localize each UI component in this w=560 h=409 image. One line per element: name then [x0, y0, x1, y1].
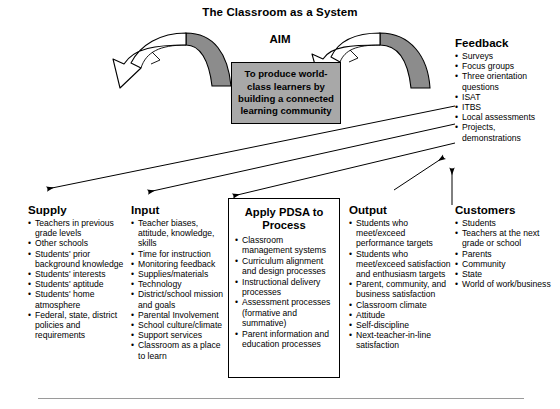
column-apply-pdsa-to-process: Apply PDSA to Process Classroom manageme… — [228, 198, 340, 378]
feedback-to-input-arrow — [148, 124, 455, 192]
list-item: Teachers at the next grade or school — [455, 228, 557, 248]
feedback-list: Surveys Focus groups Three orientation q… — [455, 51, 555, 143]
customers-list: Students Teachers at the next grade or s… — [455, 218, 557, 289]
column-input: Input Teacher biases, attitude, knowledg… — [131, 203, 229, 361]
column-heading-input: Input — [131, 203, 229, 216]
pdsa-list: Classroom management systems Curriculum … — [235, 235, 333, 349]
column-customers: Customers Students Teachers at the next … — [455, 203, 557, 289]
aim-statement: To produce world-class learners by build… — [232, 68, 340, 118]
list-item: Teacher biases, attitude, knowledge, ski… — [131, 218, 229, 249]
column-heading-supply: Supply — [28, 203, 126, 216]
column-heading-pdsa: Apply PDSA to Process — [235, 206, 333, 232]
column-supply: Supply Teachers in previous grade levels… — [28, 203, 126, 340]
list-item: Parents — [455, 249, 557, 259]
list-item: ISAT — [455, 92, 555, 102]
list-item: Classroom climate — [349, 300, 451, 310]
list-item: District/school mission and goals — [131, 289, 229, 309]
list-item: Students' prior background knowledge — [28, 249, 126, 269]
list-item: Focus groups — [455, 61, 555, 71]
bottom-divider — [38, 398, 524, 399]
column-heading-customers: Customers — [455, 203, 557, 216]
list-item: Local assessments — [455, 112, 555, 122]
list-item: Attitude — [349, 310, 451, 320]
list-item: Teachers in previous grade levels — [28, 218, 126, 238]
list-item: Three orientation questions — [455, 71, 555, 91]
aim-box: To produce world-class learners by build… — [231, 62, 341, 124]
list-item: Students who meet/exceed performance tar… — [349, 218, 451, 249]
list-item: Instructional delivery processes — [235, 277, 333, 298]
list-item: Time for instruction — [131, 249, 229, 259]
classroom-system-diagram: The Classroom as a System AIM To produce… — [0, 0, 560, 409]
list-item: Students' aptitude — [28, 279, 126, 289]
list-item: Classroom management systems — [235, 235, 333, 256]
list-item: Parent, community, and business satisfac… — [349, 279, 451, 299]
list-item: Students — [455, 218, 557, 228]
output-to-feedback-arrow — [394, 157, 444, 190]
column-output: Output Students who meet/exceed performa… — [349, 203, 451, 351]
list-item: Monitoring feedback — [131, 259, 229, 269]
list-item: Next-teacher-in-line satisfaction — [349, 330, 451, 350]
list-item: Projects, demonstrations — [455, 122, 555, 142]
list-item: Students who meet/exceed satisfaction an… — [349, 249, 451, 280]
list-item: Supplies/materials — [131, 269, 229, 279]
list-item: Technology — [131, 279, 229, 289]
output-list: Students who meet/exceed performance tar… — [349, 218, 451, 351]
list-item: Students' interests — [28, 269, 126, 279]
list-item: Other schools — [28, 238, 126, 248]
column-feedback: Feedback Surveys Focus groups Three orie… — [455, 36, 555, 143]
list-item: Parent information and education process… — [235, 329, 333, 350]
supply-list: Teachers in previous grade levels Other … — [28, 218, 126, 340]
list-item: Community — [455, 259, 557, 269]
list-item: World of work/business — [455, 279, 557, 289]
list-item: School culture/climate — [131, 320, 229, 330]
feedback-to-pdsa-arrow — [233, 143, 455, 196]
input-list: Teacher biases, attitude, knowledge, ski… — [131, 218, 229, 361]
list-item: Self-discipline — [349, 320, 451, 330]
column-heading-output: Output — [349, 203, 451, 216]
list-item: Students' home atmosphere — [28, 289, 126, 309]
list-item: Curriculum alignment and design processe… — [235, 256, 333, 277]
list-item: Classroom as a place to learn — [131, 340, 229, 360]
diagram-title: The Classroom as a System — [0, 6, 560, 18]
list-item: Parental Involvement — [131, 310, 229, 320]
column-heading-feedback: Feedback — [455, 36, 555, 49]
list-item: Assessment processes (formative and summ… — [235, 297, 333, 328]
list-item: Support services — [131, 330, 229, 340]
list-item: Surveys — [455, 51, 555, 61]
list-item: Federal, state, district policies and re… — [28, 310, 126, 341]
list-item: ITBS — [455, 102, 555, 112]
list-item: State — [455, 269, 557, 279]
